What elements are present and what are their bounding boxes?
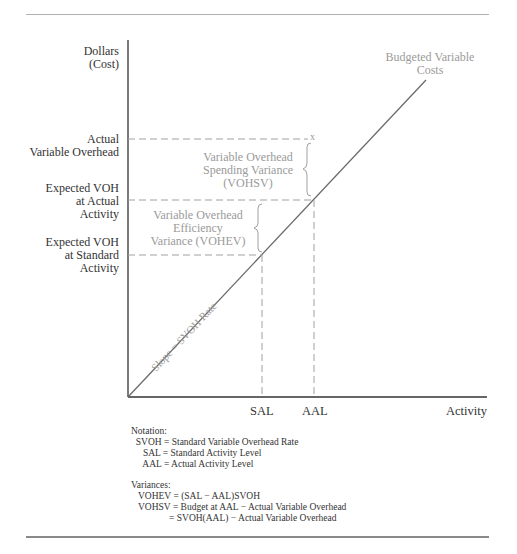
efficiency-variance-brace (254, 204, 262, 252)
slope-label: Slope = SVOH Rate (149, 300, 219, 374)
spending-variance-brace (303, 143, 311, 196)
label-line: Costs (380, 64, 480, 77)
x-axis-title: Activity (446, 404, 487, 419)
notation-row: SVOH = Standard Variable Overhead Rate (131, 437, 298, 448)
variance-row: VOHSV = Budget at AAL − Actual Variable … (131, 502, 346, 513)
notation-heading: Notation: (131, 426, 298, 437)
bottom-rule (26, 536, 489, 538)
label-line: Variance (VOHEV) (146, 235, 250, 248)
label-line: (VOHSV) (196, 177, 300, 190)
y-label-expected-voh-standard: Expected VOH at Standard Activity (46, 236, 119, 275)
notation-row: SAL = Standard Activity Level (131, 448, 298, 459)
y-axis-title: Dollars (Cost) (84, 45, 119, 71)
y-label-expected-voh-actual: Expected VOH at Actual Activity (46, 182, 119, 221)
label-line: Variable Overhead (29, 146, 119, 159)
spending-variance-label: Variable Overhead Spending Variance (VOH… (196, 151, 300, 190)
efficiency-variance-label: Variable Overhead Efficiency Variance (V… (146, 209, 250, 248)
x-label-aal: AAL (302, 404, 328, 419)
label-line: Activity (46, 262, 119, 275)
budget-line-label: Budgeted Variable Costs (380, 51, 480, 77)
variance-row: = SVOH(AAL) − Actual Variable Overhead (131, 513, 346, 524)
y-label-actual-voh: Actual Variable Overhead (29, 133, 119, 159)
label-line: Activity (46, 208, 119, 221)
actual-point-marker: x (310, 130, 315, 143)
variance-diagram: Slope = SVOH Rate (0, 0, 517, 554)
notation-row: AAL = Actual Activity Level (131, 459, 298, 470)
x-label-sal: SAL (250, 404, 274, 419)
variances-heading: Variances: (131, 480, 346, 491)
y-axis-title-line2: (Cost) (84, 58, 119, 71)
variance-row: VOHEV = (SAL − AAL)SVOH (131, 491, 346, 502)
variances-block: Variances: VOHEV = (SAL − AAL)SVOH VOHSV… (131, 480, 346, 524)
notation-block: Notation: SVOH = Standard Variable Overh… (131, 426, 298, 470)
